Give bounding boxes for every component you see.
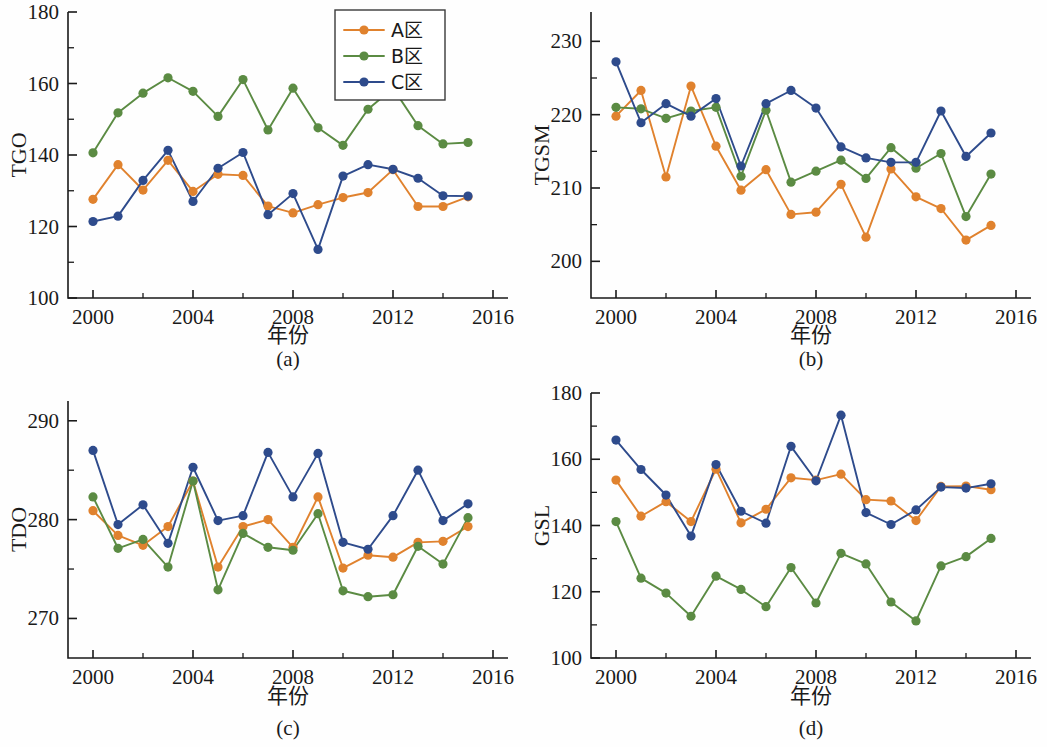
x-tick-label: 2012 bbox=[372, 665, 414, 689]
data-point bbox=[811, 476, 820, 485]
data-point bbox=[736, 585, 745, 594]
data-point bbox=[438, 560, 447, 569]
data-point bbox=[611, 57, 620, 66]
data-point bbox=[636, 104, 645, 113]
data-point bbox=[711, 103, 720, 112]
data-point bbox=[213, 562, 222, 571]
data-point bbox=[88, 148, 97, 157]
data-point bbox=[736, 507, 745, 516]
x-axis-title-c: 年份 bbox=[267, 684, 309, 708]
data-point bbox=[163, 73, 172, 82]
data-point bbox=[313, 509, 322, 518]
series-line-b-C bbox=[616, 62, 991, 166]
data-point bbox=[188, 463, 197, 472]
data-point bbox=[761, 602, 770, 611]
data-point bbox=[886, 520, 895, 529]
data-point bbox=[686, 517, 695, 526]
data-point bbox=[661, 99, 670, 108]
data-point bbox=[836, 156, 845, 165]
data-point bbox=[413, 542, 422, 551]
y-tick-label: 160 bbox=[28, 72, 60, 96]
data-point bbox=[986, 479, 995, 488]
series-line-d-A bbox=[616, 469, 991, 523]
data-point bbox=[138, 500, 147, 509]
chart-panel-d: 20002004200820122016100120140160180GSL年份… bbox=[523, 373, 1046, 746]
data-point bbox=[338, 193, 347, 202]
legend-marker-A区 bbox=[359, 25, 368, 34]
data-point bbox=[363, 545, 372, 554]
data-point bbox=[711, 460, 720, 469]
data-point bbox=[313, 200, 322, 209]
y-tick-label: 280 bbox=[28, 508, 60, 532]
data-point bbox=[686, 612, 695, 621]
data-point bbox=[238, 75, 247, 84]
panel-caption-d: (d) bbox=[799, 716, 824, 740]
data-point bbox=[213, 585, 222, 594]
data-point bbox=[313, 245, 322, 254]
x-axis-title-d: 年份 bbox=[790, 684, 832, 708]
data-point bbox=[163, 522, 172, 531]
y-axis-title-a: TGO bbox=[6, 132, 31, 177]
data-point bbox=[113, 108, 122, 117]
data-point bbox=[961, 483, 970, 492]
data-point bbox=[761, 165, 770, 174]
data-point bbox=[911, 516, 920, 525]
data-point bbox=[263, 448, 272, 457]
data-point bbox=[288, 84, 297, 93]
data-point bbox=[661, 114, 670, 123]
data-point bbox=[636, 465, 645, 474]
data-point bbox=[263, 515, 272, 524]
data-point bbox=[113, 520, 122, 529]
x-axis-title-a: 年份 bbox=[267, 323, 309, 347]
data-point bbox=[761, 519, 770, 528]
data-point bbox=[661, 588, 670, 597]
y-tick-label: 120 bbox=[551, 580, 583, 604]
data-point bbox=[911, 158, 920, 167]
data-point bbox=[861, 495, 870, 504]
data-point bbox=[711, 94, 720, 103]
y-axis-title-b: TGSM bbox=[529, 124, 554, 185]
chart-svg-d: 20002004200820122016100120140160180GSL年份… bbox=[523, 373, 1046, 746]
axis-spines-d bbox=[591, 393, 1031, 658]
data-point bbox=[611, 112, 620, 121]
series-line-d-B bbox=[616, 522, 991, 621]
x-tick-label: 2012 bbox=[895, 665, 937, 689]
data-point bbox=[388, 590, 397, 599]
data-point bbox=[388, 165, 397, 174]
panel-caption-a: (a) bbox=[276, 347, 299, 371]
data-point bbox=[88, 492, 97, 501]
data-point bbox=[338, 563, 347, 572]
data-point bbox=[636, 512, 645, 521]
y-tick-label: 140 bbox=[551, 514, 583, 538]
data-point bbox=[886, 597, 895, 606]
x-tick-label: 2016 bbox=[472, 305, 514, 329]
legend-marker-B区 bbox=[359, 51, 368, 60]
data-point bbox=[986, 169, 995, 178]
data-point bbox=[636, 574, 645, 583]
data-point bbox=[413, 174, 422, 183]
y-axis-title-c: TDO bbox=[6, 507, 31, 552]
legend-label: A区 bbox=[391, 19, 423, 41]
data-point bbox=[338, 141, 347, 150]
data-point bbox=[861, 174, 870, 183]
data-point bbox=[263, 210, 272, 219]
figure-container: 20002004200820122016100120140160180TGO年份… bbox=[0, 0, 1047, 747]
data-point bbox=[661, 172, 670, 181]
data-point bbox=[313, 123, 322, 132]
data-point bbox=[811, 167, 820, 176]
data-point bbox=[911, 616, 920, 625]
panel-caption-c: (c) bbox=[276, 716, 299, 740]
data-point bbox=[338, 586, 347, 595]
data-point bbox=[736, 518, 745, 527]
x-tick-label: 2000 bbox=[72, 305, 114, 329]
data-point bbox=[363, 105, 372, 114]
data-point bbox=[188, 476, 197, 485]
data-point bbox=[463, 499, 472, 508]
data-point bbox=[438, 516, 447, 525]
data-point bbox=[936, 204, 945, 213]
chart-panel-b: 20002004200820122016200210220230TGSM年份(b… bbox=[523, 0, 1046, 373]
data-point bbox=[188, 87, 197, 96]
data-point bbox=[811, 598, 820, 607]
data-point bbox=[611, 435, 620, 444]
data-point bbox=[263, 543, 272, 552]
